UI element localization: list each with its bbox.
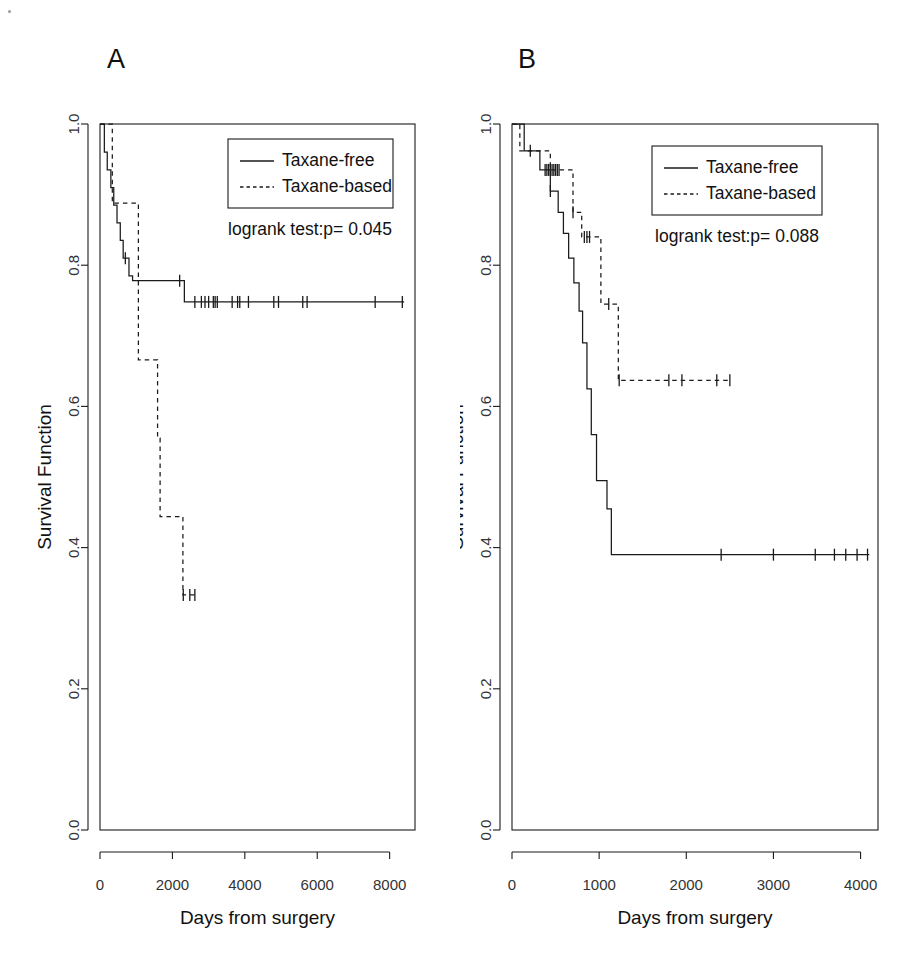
legend-label: Taxane-free [282,150,374,170]
x-axis-title: Days from surgery [617,907,773,928]
x-tick-label: 0 [96,876,104,893]
x-tick-label: 3000 [757,876,790,893]
y-tick-label: 0.2 [477,678,494,699]
y-tick-label: 0.8 [65,255,82,276]
curve-taxane-based [100,124,198,595]
x-tick-label: 0 [508,876,516,893]
panel-a-plot: 0.00.20.40.60.81.0Survival Function02000… [0,0,460,968]
y-tick-label: 1.0 [65,114,82,135]
x-tick-label: 4000 [844,876,877,893]
y-tick-label: 0.4 [477,537,494,558]
y-tick-label: 0.0 [65,820,82,841]
survival-figure: A 0.00.20.40.60.81.0Survival Function020… [0,0,921,968]
y-tick-label: 0.2 [65,678,82,699]
x-axis-title: Days from surgery [180,907,336,928]
x-tick-label: 4000 [228,876,261,893]
y-tick-label: 0.6 [65,396,82,417]
logrank-pvalue-label: logrank test:p= 0.088 [655,226,819,246]
legend-label: Taxane-free [706,157,798,177]
x-tick-label: 1000 [582,876,615,893]
logrank-pvalue-label: logrank test:p= 0.045 [228,219,392,239]
panel-b: B 0.00.20.40.60.81.0Survival Function010… [460,0,920,968]
legend-label: Taxane-based [706,183,816,203]
x-tick-label: 2000 [156,876,189,893]
y-tick-label: 0.4 [65,537,82,558]
y-tick-label: 0.6 [477,396,494,417]
panel-b-plot: 0.00.20.40.60.81.0Survival Function01000… [460,0,920,968]
x-tick-label: 6000 [301,876,334,893]
legend-label: Taxane-based [282,176,392,196]
y-axis-title: Survival Function [34,404,55,550]
panel-a: A 0.00.20.40.60.81.0Survival Function020… [0,0,460,968]
y-axis-title: Survival Function [460,404,467,550]
y-tick-label: 0.8 [477,255,494,276]
x-tick-label: 8000 [373,876,406,893]
y-tick-label: 0.0 [477,820,494,841]
x-tick-label: 2000 [670,876,703,893]
y-tick-label: 1.0 [477,114,494,135]
